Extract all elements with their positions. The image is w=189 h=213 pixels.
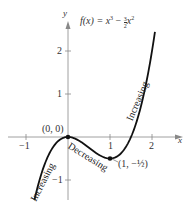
tick-label-x-neg1: −1 bbox=[19, 141, 30, 151]
point-min-label: (1, −½) bbox=[118, 159, 148, 169]
y-axis-label: y bbox=[63, 9, 67, 18]
tick-label-x-1: 1 bbox=[108, 141, 113, 151]
title-minus: − bbox=[113, 15, 124, 26]
y-axis-arrow-icon bbox=[66, 21, 71, 29]
x-axis-label: x bbox=[178, 136, 182, 145]
point-min-marker bbox=[108, 156, 113, 161]
tick-label-x-2: 2 bbox=[149, 141, 154, 151]
chart-canvas bbox=[0, 0, 189, 213]
tick-label-y-2: 2 bbox=[57, 46, 62, 56]
title-exp2: 2 bbox=[131, 15, 134, 21]
tick-label-y-1: 1 bbox=[57, 89, 62, 99]
chart-title: f(x) = x3 − 32x2 bbox=[80, 15, 134, 29]
point-origin-label: (0, 0) bbox=[42, 124, 64, 134]
point-origin-marker bbox=[66, 135, 71, 140]
title-fx: f(x) = x bbox=[80, 15, 110, 26]
tick-label-y-neg1: −1 bbox=[52, 175, 63, 185]
